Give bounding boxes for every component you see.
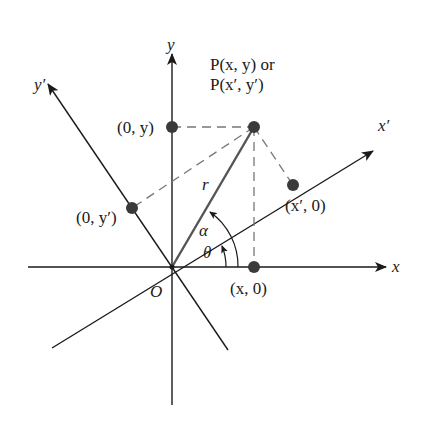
point-0-y-label: (0, y) [117, 119, 154, 136]
point-xprime-0-label: (x′, 0) [285, 197, 326, 214]
alpha-label: α [199, 222, 208, 239]
theta-arc [222, 246, 226, 267]
segment-r-label: r [202, 176, 209, 193]
point-p-label-line2: P(x′, y′) [210, 76, 264, 93]
x-axis-label: x [392, 258, 400, 275]
rotation-diagram: y x x′ y′ P(x, y) or P(x′, y′) (0, y) (0… [0, 0, 428, 426]
x-prime-axis-label: x′ [378, 117, 389, 134]
point-x-0-label: (x, 0) [230, 280, 267, 297]
y-axis-label: y [167, 36, 175, 53]
vector-r [172, 127, 254, 267]
origin-label: O [150, 283, 162, 300]
point-0-yprime-label: (0, y′) [76, 209, 117, 226]
y-prime-axis-label: y′ [34, 76, 45, 93]
x-prime-axis [52, 151, 373, 348]
alpha-arc [210, 212, 238, 267]
theta-label: θ [203, 244, 211, 261]
point-p-label-line1: P(x, y) or [210, 56, 275, 73]
